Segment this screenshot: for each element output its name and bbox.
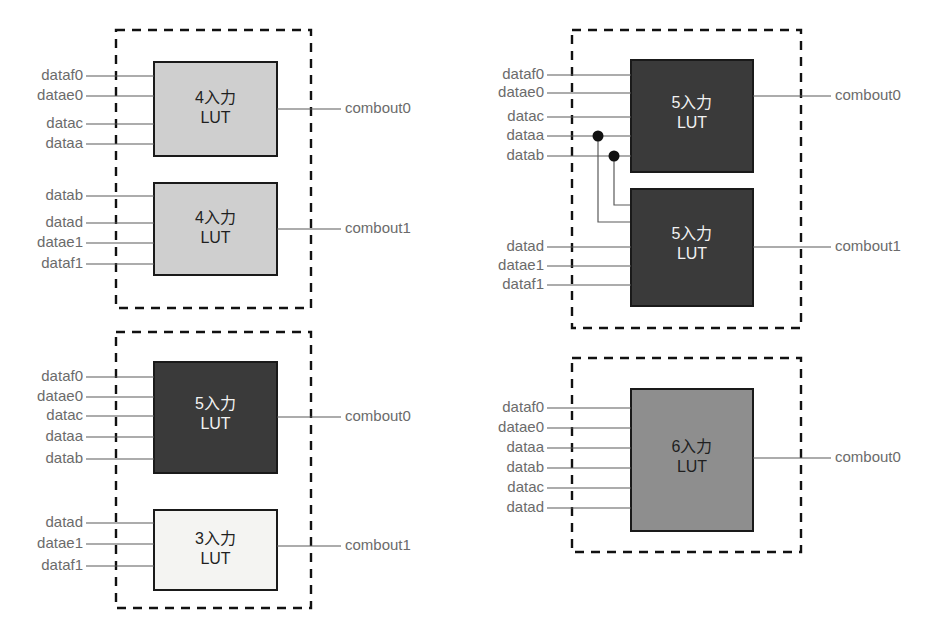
lut-configuration-diagram: 4入力 LUT dataf0 datae0 datac dataa combou… xyxy=(0,0,942,628)
group-bottom-left: 5入力 LUT dataf0 datae0 datac dataa datab … xyxy=(37,332,411,608)
lut-bl-1-title-line1: 3入力 xyxy=(195,530,236,547)
output-label-tl-0: combout0 xyxy=(345,99,411,116)
lut-tr-0-title-line1: 5入力 xyxy=(672,94,713,111)
lut-tr-1-title-line2: LUT xyxy=(677,245,707,262)
pin-label-bl-0-2: datac xyxy=(46,406,83,423)
lut-br-0-title-line1: 6入力 xyxy=(672,438,713,455)
pin-label-tr-1-2: dataf1 xyxy=(502,275,544,292)
pin-label-tr-0-4: datab xyxy=(506,146,544,163)
pin-label-bl-0-1: datae0 xyxy=(37,387,83,404)
output-label-tr-1: combout1 xyxy=(835,237,901,254)
lut-diagram-canvas: 4入力 LUT dataf0 datae0 datac dataa combou… xyxy=(0,0,942,628)
pin-label-tr-1-1: datae1 xyxy=(498,256,544,273)
junction-dot-dataa xyxy=(593,131,604,142)
group-bottom-right: 6入力 LUT dataf0 datae0 dataa datab datac … xyxy=(498,358,901,552)
pin-label-tl-0-1: datae0 xyxy=(37,86,83,103)
output-label-bl-0: combout0 xyxy=(345,407,411,424)
pin-label-tr-0-3: dataa xyxy=(506,126,544,143)
wire-tr-shared-datab xyxy=(614,156,631,205)
output-label-tr-0: combout0 xyxy=(835,86,901,103)
lut-tl-0-title-line2: LUT xyxy=(200,109,230,126)
group-top-right: 5入力 LUT dataf0 datae0 datac dataa datab … xyxy=(498,30,901,328)
output-label-tl-1: combout1 xyxy=(345,219,411,236)
lut-tr-0-title-line2: LUT xyxy=(677,114,707,131)
lut-bl-0-title-line1: 5入力 xyxy=(195,395,236,412)
lut-br-0-title-line2: LUT xyxy=(677,458,707,475)
pin-label-tr-0-2: datac xyxy=(507,107,544,124)
pin-label-tl-0-2: datac xyxy=(46,114,83,131)
lut-bl-0-title-line2: LUT xyxy=(200,415,230,432)
pin-label-br-0-3: datab xyxy=(506,458,544,475)
pin-label-tl-0-0: dataf0 xyxy=(41,66,83,83)
pin-label-tr-0-0: dataf0 xyxy=(502,65,544,82)
pin-label-bl-1-1: datae1 xyxy=(37,534,83,551)
pin-label-bl-0-0: dataf0 xyxy=(41,367,83,384)
pin-label-bl-1-0: datad xyxy=(45,513,83,530)
pin-label-tr-0-1: datae0 xyxy=(498,83,544,100)
lut-tl-1-title-line2: LUT xyxy=(200,229,230,246)
junction-dot-datab xyxy=(609,151,620,162)
pin-label-bl-0-4: datab xyxy=(45,449,83,466)
lut-tl-0-title-line1: 4入力 xyxy=(195,89,236,106)
pin-label-tl-1-3: dataf1 xyxy=(41,254,83,271)
lut-tr-1-title-line1: 5入力 xyxy=(672,225,713,242)
pin-label-br-0-2: dataa xyxy=(506,438,544,455)
output-label-br-0: combout0 xyxy=(835,448,901,465)
pin-label-bl-0-3: dataa xyxy=(45,427,83,444)
pin-label-tl-1-2: datae1 xyxy=(37,233,83,250)
pin-label-br-0-4: datac xyxy=(507,478,544,495)
group-top-left: 4入力 LUT dataf0 datae0 datac dataa combou… xyxy=(37,30,411,308)
lut-tl-1-title-line1: 4入力 xyxy=(195,209,236,226)
output-label-bl-1: combout1 xyxy=(345,536,411,553)
pin-label-tr-1-0: datad xyxy=(506,237,544,254)
pin-label-tl-1-1: datad xyxy=(45,213,83,230)
lut-bl-1-title-line2: LUT xyxy=(200,550,230,567)
pin-label-br-0-1: datae0 xyxy=(498,418,544,435)
pin-label-tl-0-3: dataa xyxy=(45,134,83,151)
pin-label-bl-1-2: dataf1 xyxy=(41,556,83,573)
pin-label-br-0-0: dataf0 xyxy=(502,398,544,415)
pin-label-br-0-5: datad xyxy=(506,498,544,515)
pin-label-tl-1-0: datab xyxy=(45,186,83,203)
